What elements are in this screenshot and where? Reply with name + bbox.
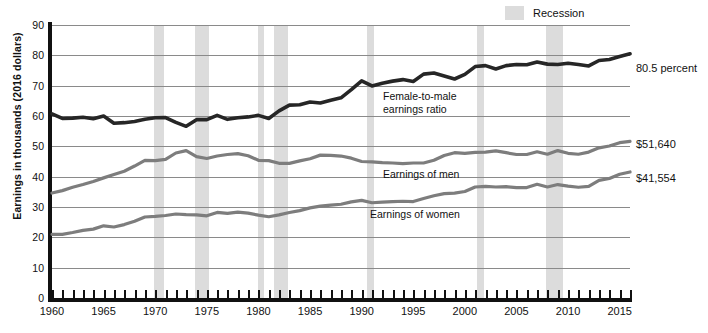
x-tick-label: 1980 bbox=[236, 305, 280, 317]
y-tick-label: 50 bbox=[18, 141, 44, 152]
x-tick bbox=[351, 290, 353, 299]
x-tick bbox=[279, 290, 281, 299]
x-tick bbox=[207, 290, 209, 299]
y-tick-label: 80 bbox=[18, 50, 44, 61]
x-tick-label: 2005 bbox=[494, 305, 538, 317]
x-tick bbox=[599, 290, 601, 299]
x-tick bbox=[620, 290, 622, 299]
x-tick bbox=[135, 290, 137, 299]
x-tick-label: 2000 bbox=[443, 305, 487, 317]
x-tick bbox=[578, 290, 580, 299]
x-tick bbox=[475, 290, 477, 299]
x-tick bbox=[444, 290, 446, 299]
x-tick-label: 1985 bbox=[288, 305, 332, 317]
x-tick bbox=[289, 290, 291, 299]
x-tick bbox=[166, 290, 168, 299]
x-tick bbox=[238, 290, 240, 299]
men-end-label: $51,640 bbox=[636, 138, 676, 150]
x-tick bbox=[630, 290, 632, 299]
y-tick-label: 60 bbox=[18, 111, 44, 122]
series-line bbox=[52, 54, 630, 126]
x-tick bbox=[217, 290, 219, 299]
x-tick-label: 2010 bbox=[546, 305, 590, 317]
women-annotation-line1: Earnings of women bbox=[370, 208, 460, 221]
x-tick bbox=[145, 290, 147, 299]
x-tick bbox=[83, 290, 85, 299]
x-tick bbox=[341, 290, 343, 299]
y-tick-label: 20 bbox=[18, 232, 44, 243]
women-end-label: $41,554 bbox=[636, 172, 676, 184]
x-tick bbox=[568, 290, 570, 299]
x-tick bbox=[413, 290, 415, 299]
series-layer bbox=[0, 0, 708, 333]
x-tick bbox=[310, 290, 312, 299]
ratio-annotation-line2: earnings ratio bbox=[383, 103, 457, 116]
x-tick bbox=[362, 290, 364, 299]
y-tick-label: 0 bbox=[18, 293, 44, 304]
x-tick bbox=[114, 290, 116, 299]
men-annotation: Earnings of men bbox=[383, 168, 459, 181]
y-tick-label: 90 bbox=[18, 20, 44, 31]
x-tick bbox=[62, 290, 64, 299]
y-tick-label: 70 bbox=[18, 81, 44, 92]
x-tick-label: 2015 bbox=[598, 305, 642, 317]
x-tick-label: 1965 bbox=[82, 305, 126, 317]
x-tick bbox=[506, 290, 508, 299]
x-tick bbox=[197, 290, 199, 299]
x-tick bbox=[403, 290, 405, 299]
x-tick bbox=[300, 290, 302, 299]
x-tick-label: 1970 bbox=[133, 305, 177, 317]
x-tick bbox=[424, 290, 426, 299]
x-tick bbox=[73, 290, 75, 299]
ratio-end-label: 80.5 percent bbox=[636, 62, 697, 74]
x-tick bbox=[372, 290, 374, 299]
ratio-annotation-line1: Female-to-male bbox=[383, 90, 457, 103]
x-tick bbox=[258, 290, 260, 299]
x-tick-label: 1975 bbox=[185, 305, 229, 317]
x-tick bbox=[104, 290, 106, 299]
x-tick-label: 1990 bbox=[340, 305, 384, 317]
x-tick bbox=[558, 290, 560, 299]
x-tick bbox=[155, 290, 157, 299]
x-tick bbox=[393, 290, 395, 299]
x-tick bbox=[269, 290, 271, 299]
chart-root: Recession Earnings in thousands (2016 do… bbox=[0, 0, 708, 333]
x-tick-label: 1995 bbox=[391, 305, 435, 317]
series-line bbox=[52, 172, 630, 234]
x-tick bbox=[382, 290, 384, 299]
x-tick bbox=[434, 290, 436, 299]
x-tick bbox=[465, 290, 467, 299]
x-tick bbox=[176, 290, 178, 299]
x-tick bbox=[516, 290, 518, 299]
x-tick bbox=[486, 290, 488, 299]
x-tick bbox=[227, 290, 229, 299]
x-tick-label: 1960 bbox=[30, 305, 74, 317]
x-tick bbox=[589, 290, 591, 299]
men-annotation-line1: Earnings of men bbox=[383, 168, 459, 181]
x-tick bbox=[537, 290, 539, 299]
x-tick bbox=[609, 290, 611, 299]
x-tick bbox=[547, 290, 549, 299]
x-tick bbox=[93, 290, 95, 299]
y-tick-label: 10 bbox=[18, 263, 44, 274]
x-tick bbox=[496, 290, 498, 299]
x-tick bbox=[527, 290, 529, 299]
y-tick-label: 30 bbox=[18, 202, 44, 213]
x-tick bbox=[186, 290, 188, 299]
x-tick bbox=[455, 290, 457, 299]
x-tick bbox=[320, 290, 322, 299]
women-annotation: Earnings of women bbox=[370, 208, 460, 221]
x-tick bbox=[124, 290, 126, 299]
x-tick bbox=[52, 290, 54, 299]
ratio-annotation: Female-to-male earnings ratio bbox=[383, 90, 457, 116]
x-tick bbox=[248, 290, 250, 299]
y-tick-label: 40 bbox=[18, 172, 44, 183]
x-tick bbox=[331, 290, 333, 299]
